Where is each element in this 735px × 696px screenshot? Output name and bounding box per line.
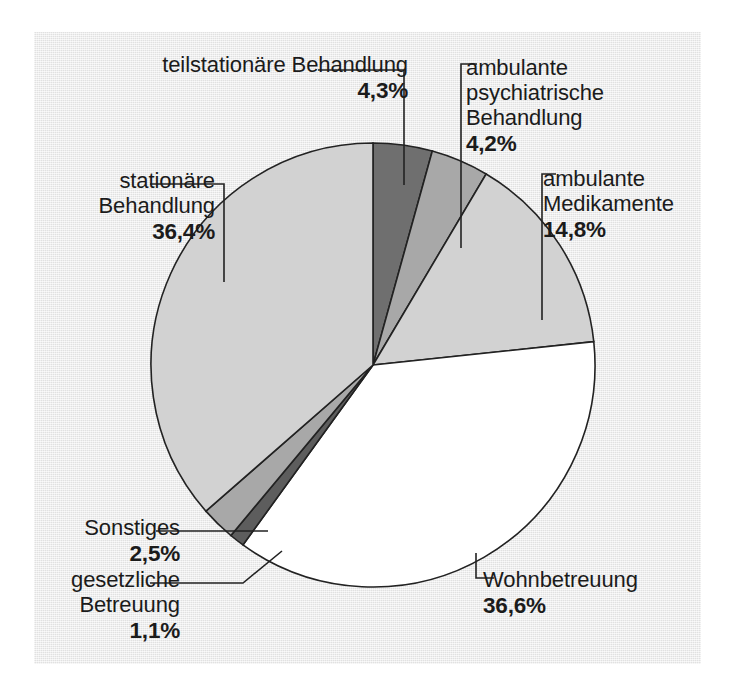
label-text: Wohnbetreuung xyxy=(483,567,713,592)
label-percent: 14,8% xyxy=(543,217,733,243)
label-text-line1: stationäre xyxy=(25,168,215,193)
pie-slice-group xyxy=(151,143,595,587)
label-gesetzliche-betreuung: gesetzliche Betreuung 1,1% xyxy=(20,567,180,644)
label-wohnbetreuung: Wohnbetreuung 36,6% xyxy=(483,567,713,619)
label-text-line1: gesetzliche xyxy=(20,567,180,592)
label-percent: 2,5% xyxy=(25,541,180,567)
label-stationaere-behandlung: stationäre Behandlung 36,4% xyxy=(25,168,215,245)
label-ambulante-medikamente: ambulante Medikamente 14,8% xyxy=(543,166,733,243)
label-percent: 4,3% xyxy=(108,78,408,104)
label-text-line3: Behandlung xyxy=(466,105,696,130)
label-percent: 1,1% xyxy=(20,618,180,644)
label-text-line1: ambulante xyxy=(543,166,733,191)
label-text-line1: ambulante xyxy=(466,55,696,80)
label-text: teilstationäre Behandlung xyxy=(108,52,408,77)
label-percent: 36,4% xyxy=(25,219,215,245)
label-text-line2: Betreuung xyxy=(20,592,180,617)
label-ambulante-psychiatrische-behandlung: ambulante psychiatrische Behandlung 4,2% xyxy=(466,55,696,157)
label-sonstiges: Sonstiges 2,5% xyxy=(25,515,180,567)
label-text: Sonstiges xyxy=(25,515,180,540)
label-text-line2: Medikamente xyxy=(543,191,733,216)
label-percent: 36,6% xyxy=(483,593,713,619)
label-percent: 4,2% xyxy=(466,131,696,157)
label-text-line2: Behandlung xyxy=(25,193,215,218)
label-text-line2: psychiatrische xyxy=(466,80,696,105)
label-teilstationaere-behandlung: teilstationäre Behandlung 4,3% xyxy=(108,52,408,104)
